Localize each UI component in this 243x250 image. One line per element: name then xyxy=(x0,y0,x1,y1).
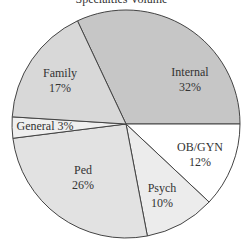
label-ped: Ped 26% xyxy=(72,163,94,193)
label-internal-name: Internal xyxy=(171,65,208,80)
label-obgyn-pct: 12% xyxy=(177,155,223,170)
label-general: General 3% xyxy=(17,119,74,134)
label-obgyn: OB/GYN 12% xyxy=(177,140,223,170)
label-psych-pct: 10% xyxy=(148,196,177,211)
label-general-name: General 3% xyxy=(17,119,74,134)
label-ped-pct: 26% xyxy=(72,178,94,193)
label-internal-pct: 32% xyxy=(171,80,208,95)
label-family-name: Family xyxy=(43,66,77,81)
label-internal: Internal 32% xyxy=(171,65,208,95)
label-family-pct: 17% xyxy=(43,81,77,96)
label-family: Family 17% xyxy=(43,66,77,96)
label-obgyn-name: OB/GYN xyxy=(177,140,223,155)
label-psych: Psych 10% xyxy=(148,181,177,211)
label-psych-name: Psych xyxy=(148,181,177,196)
label-ped-name: Ped xyxy=(72,163,94,178)
